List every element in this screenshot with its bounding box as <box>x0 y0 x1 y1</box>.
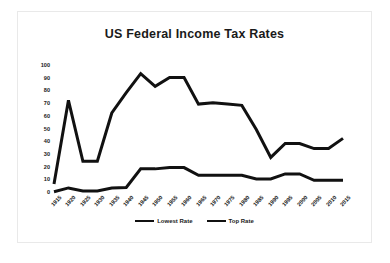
x-tick-label: 1960 <box>181 195 194 208</box>
x-tick-label: 2010 <box>325 195 338 208</box>
x-tick-label: 2000 <box>296 195 309 208</box>
x-tick-label: 1975 <box>224 195 237 208</box>
x-tick-label: 1955 <box>166 195 179 208</box>
y-tick-label: 20 <box>44 165 50 171</box>
x-tick-label: 1925 <box>79 195 92 208</box>
y-tick-label: 0 <box>47 190 50 196</box>
plot-lines <box>54 66 343 193</box>
x-tick-label: 1915 <box>51 195 64 208</box>
x-tick-label: 1965 <box>195 195 208 208</box>
y-tick-label: 70 <box>44 101 50 107</box>
legend-line-icon <box>207 220 226 222</box>
x-tick-label: 1940 <box>123 195 136 208</box>
y-axis: 0102030405060708090100 <box>18 61 52 198</box>
legend-item[interactable]: Lowest Rate <box>135 218 192 224</box>
legend-label: Lowest Rate <box>157 218 192 224</box>
x-tick-label: 1985 <box>253 195 266 208</box>
x-tick-label: 1980 <box>238 195 251 208</box>
x-tick-label: 2005 <box>311 195 324 208</box>
x-tick-label: 1950 <box>152 195 165 208</box>
x-tick-label: 1970 <box>209 195 222 208</box>
legend-item[interactable]: Top Rate <box>207 218 254 224</box>
y-tick-label: 80 <box>44 89 50 95</box>
plot-area <box>54 66 343 193</box>
y-tick-label: 90 <box>44 76 50 82</box>
x-tick-label: 1945 <box>137 195 150 208</box>
x-tick-label: 1935 <box>108 195 121 208</box>
y-tick-label: 60 <box>44 114 50 120</box>
x-tick-label: 1930 <box>94 195 107 208</box>
y-tick-label: 40 <box>44 139 50 145</box>
y-tick-label: 10 <box>44 178 50 184</box>
x-tick-label: 1990 <box>267 195 280 208</box>
legend-line-icon <box>135 220 154 222</box>
chart-legend: Lowest RateTop Rate <box>18 218 371 224</box>
y-tick-label: 30 <box>44 152 50 158</box>
y-tick-label: 50 <box>44 127 50 133</box>
chart-title: US Federal Income Tax Rates <box>18 27 371 41</box>
legend-label: Top Rate <box>229 218 254 224</box>
y-tick-label: 100 <box>41 63 50 69</box>
x-tick-label: 1920 <box>65 195 78 208</box>
x-tick-label: 1995 <box>282 195 295 208</box>
x-tick-label: 2015 <box>340 195 353 208</box>
chart-figure: US Federal Income Tax Rates 010203040506… <box>17 11 372 243</box>
series-line-lowest-rate <box>54 168 343 192</box>
series-line-top-rate <box>54 74 343 184</box>
